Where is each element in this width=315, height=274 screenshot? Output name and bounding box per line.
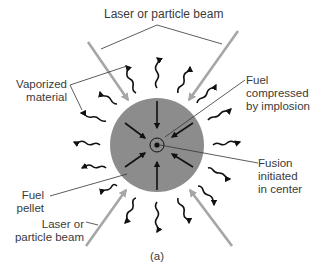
label-beam-bottom: Laser or particle beam [10, 218, 84, 244]
label-vaporized-material: Vaporized material [12, 78, 67, 104]
label-pellet-line1: Fuel [10, 189, 44, 202]
label-compressed-line3: by implosion [246, 100, 310, 113]
label-beam-top: Laser or particle beam [104, 8, 223, 21]
label-beam-bottom-line2: particle beam [10, 231, 84, 244]
label-fusion-line3: in center [258, 183, 302, 196]
label-compressed-line2: compressed [246, 87, 310, 100]
label-beam-bottom-line1: Laser or [10, 218, 84, 231]
label-fusion-line1: Fusion [258, 157, 302, 170]
label-fusion-line2: initiated [258, 170, 302, 183]
figure-caption: (a) [150, 250, 164, 263]
label-fuel-compressed: Fuel compressed by implosion [246, 74, 310, 113]
label-vaporized-line1: Vaporized [12, 78, 67, 91]
label-vaporized-line2: material [12, 91, 67, 104]
label-pellet-line2: pellet [10, 202, 44, 215]
fusion-core [154, 142, 159, 147]
label-fusion-initiated: Fusion initiated in center [258, 157, 302, 196]
label-fuel-pellet: Fuel pellet [10, 189, 44, 215]
label-compressed-line1: Fuel [246, 74, 310, 87]
